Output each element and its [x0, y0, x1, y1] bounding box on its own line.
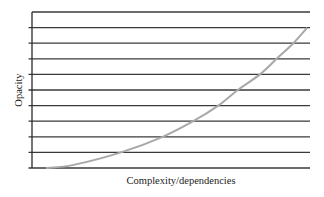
x-axis-label: Complexity/dependencies — [126, 175, 235, 186]
gridlines — [29, 12, 311, 168]
chart: Opacity Complexity/dependencies — [0, 0, 324, 197]
y-axis-label: Opacity — [13, 73, 24, 107]
opacity-curve-line — [46, 28, 307, 168]
